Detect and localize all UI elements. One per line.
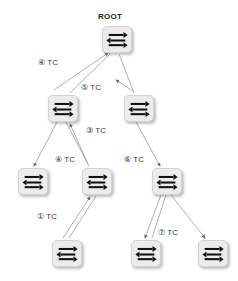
network-switch-icon xyxy=(53,241,81,266)
network-switch-icon xyxy=(153,169,181,194)
edge-label-e2: ⑤ TC xyxy=(81,83,101,92)
switch-node-root[interactable] xyxy=(102,26,132,53)
edge-arrow-n2-root xyxy=(116,80,133,91)
switch-node-n5[interactable] xyxy=(152,168,182,195)
switch-node-n8[interactable] xyxy=(198,240,228,267)
edge-arrow-n6-n4 xyxy=(63,197,90,238)
network-switch-icon xyxy=(19,169,47,194)
switch-node-n3[interactable] xyxy=(18,168,48,195)
network-switch-icon xyxy=(125,96,153,121)
edge-label-e7: ⑦ TC xyxy=(158,228,178,237)
edge-label-e5: ⑥ TC xyxy=(124,155,144,164)
network-switch-icon xyxy=(83,169,111,194)
network-switch-icon xyxy=(49,96,77,121)
edge-label-e1: ④ TC xyxy=(38,58,58,67)
switch-node-n7[interactable] xyxy=(131,240,161,267)
switch-node-n2[interactable] xyxy=(124,95,154,122)
network-switch-icon xyxy=(103,27,131,52)
edge-line-n4-n6 xyxy=(69,196,96,238)
edge-label-e6: ① TC xyxy=(37,212,57,221)
switch-node-n1[interactable] xyxy=(48,95,78,122)
topology-diagram: ROOT xyxy=(0,0,238,281)
root-label: ROOT xyxy=(98,12,122,21)
edge-label-e3: ③ TC xyxy=(86,126,106,135)
network-switch-icon xyxy=(199,241,227,266)
network-switch-icon xyxy=(132,241,160,266)
edge-label-e4: ④ TC xyxy=(55,155,75,164)
edge-line-n1-n3 xyxy=(34,122,57,166)
switch-node-n6[interactable] xyxy=(52,240,82,267)
switch-node-n4[interactable] xyxy=(82,168,112,195)
